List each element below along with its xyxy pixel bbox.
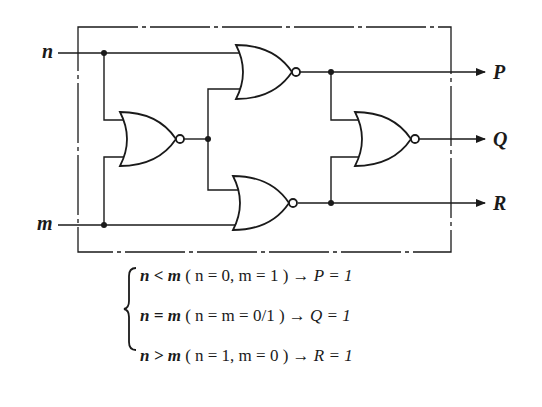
nor-gate-3 — [233, 176, 297, 230]
input-label-n: n — [42, 40, 53, 62]
nor-gate-4 — [355, 112, 419, 166]
nor-gate-2 — [236, 45, 300, 99]
input-label-m: m — [37, 212, 53, 234]
equation-line-3: n > m ( n = 1, m = 0 ) → R = 1 — [140, 346, 353, 366]
output-label-R: R — [492, 192, 506, 214]
junction-n — [101, 50, 107, 56]
equation-line-2: n = m ( n = m = 0/1 ) → Q = 1 — [140, 306, 351, 326]
equation-brace — [124, 268, 136, 350]
junction-P — [328, 69, 334, 75]
junction-R — [328, 200, 334, 206]
equation-line-1: n < m ( n = 0, m = 1 ) → P = 1 — [140, 266, 352, 286]
junction-x — [205, 136, 211, 142]
output-label-Q: Q — [493, 128, 507, 150]
wire-n-to-g1 — [104, 53, 126, 120]
junction-m — [101, 222, 107, 228]
wire-m-to-g1 — [104, 157, 126, 225]
nor-gate-1 — [120, 112, 184, 166]
output-label-P: P — [492, 61, 506, 83]
